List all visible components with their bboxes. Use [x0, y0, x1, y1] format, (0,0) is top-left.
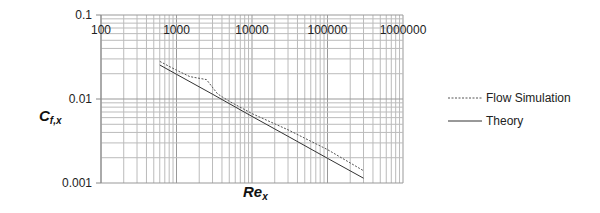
y-tick-label: 0.001	[62, 176, 92, 190]
x-tick-label: 1000000	[380, 23, 427, 37]
chart: 1001000100001000001000000 0.10.010.001 C…	[0, 0, 600, 213]
y-axis-label: Cf,x	[39, 107, 62, 126]
x-axis-label: Rex	[243, 183, 268, 202]
x-tick-label: 1000	[163, 23, 190, 37]
legend-flow-simulation: Flow Simulation	[486, 91, 571, 105]
x-axis-ticks: 1001000100001000001000000	[91, 23, 427, 37]
grid-lines	[96, 15, 403, 183]
x-tick-label: 100000	[307, 23, 347, 37]
data-series	[160, 61, 364, 178]
y-tick-label: 0.01	[69, 92, 93, 106]
x-tick-label: 10000	[235, 23, 269, 37]
x-tick-label: 100	[91, 23, 111, 37]
y-tick-label: 0.1	[75, 8, 92, 22]
theory-line	[160, 65, 364, 178]
legend: Flow Simulation Theory	[448, 91, 571, 128]
legend-theory: Theory	[486, 114, 523, 128]
flow-simulation-line	[160, 61, 364, 170]
y-axis-ticks: 0.10.010.001	[62, 8, 92, 190]
